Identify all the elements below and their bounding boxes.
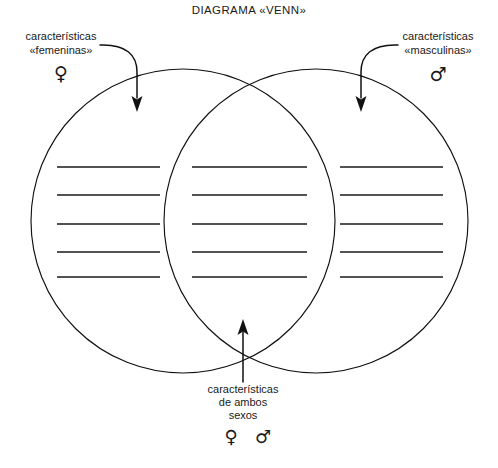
- center-label-line-3: sexos: [229, 409, 258, 421]
- venus-symbol-left: ♀: [54, 62, 68, 84]
- left-label-line-1: características: [26, 30, 97, 42]
- center-label-line-1: características: [208, 383, 279, 395]
- left-label-line-2: «femeninas»: [30, 44, 93, 56]
- venus-symbol-center: ♀: [224, 426, 237, 447]
- right-label-line-2: «masculinas»: [404, 44, 471, 56]
- page-title: DIAGRAMA «VENN»: [192, 4, 307, 16]
- mars-symbol-right: ♂: [429, 63, 446, 85]
- right-label-line-1: características: [403, 30, 474, 42]
- center-label-line-2: de ambos: [219, 396, 268, 408]
- venn-diagram-canvas: DIAGRAMA «VENN» características «femenin…: [0, 0, 498, 468]
- mars-symbol-center: ♂: [255, 426, 271, 447]
